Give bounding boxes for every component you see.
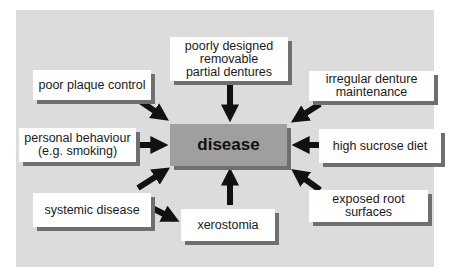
arrow-plaque bbox=[140, 101, 162, 116]
arrow-systemic bbox=[138, 172, 163, 188]
factor-systemic-disease: systemic disease bbox=[33, 193, 151, 227]
disease-label: disease bbox=[197, 135, 259, 155]
factor-exposed-root-surfaces: exposed root surfaces bbox=[309, 190, 428, 222]
disease-box: disease bbox=[170, 124, 287, 166]
factor-xerostomia: xerostomia bbox=[181, 209, 275, 241]
arrow-exposed bbox=[298, 174, 320, 190]
factor-personal-behaviour: personal behaviour (e.g. smoking) bbox=[19, 128, 136, 162]
arrow-systemic-xerostomia bbox=[150, 207, 172, 218]
factor-poorly-designed-dentures: poorly designed removable partial dentur… bbox=[170, 37, 288, 81]
arrow-irregular bbox=[298, 104, 320, 118]
factor-poor-plaque-control: poor plaque control bbox=[33, 70, 151, 100]
factor-irregular-denture-maintenance: irregular denture maintenance bbox=[309, 71, 434, 101]
factor-high-sucrose-diet: high sucrose diet bbox=[319, 129, 441, 163]
